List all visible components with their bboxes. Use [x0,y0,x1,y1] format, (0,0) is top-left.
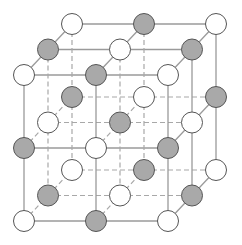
lattice-atoms [14,14,227,232]
gray-ion-atom [134,14,155,35]
lattice-diagram [0,0,242,245]
white-ion-atom [38,112,59,133]
gray-ion-atom [182,185,203,206]
white-ion-atom [86,138,107,159]
white-ion-atom [110,185,131,206]
gray-ion-atom [182,39,203,60]
white-ion-atom [158,65,179,86]
white-ion-atom [14,211,35,232]
gray-ion-atom [134,160,155,181]
gray-ion-atom [158,138,179,159]
gray-ion-atom [38,39,59,60]
white-ion-atom [134,87,155,108]
white-ion-atom [206,14,227,35]
gray-ion-atom [14,138,35,159]
gray-ion-atom [38,185,59,206]
white-ion-atom [182,112,203,133]
gray-ion-atom [62,87,83,108]
gray-ion-atom [86,65,107,86]
lattice-svg [0,0,242,245]
white-ion-atom [206,160,227,181]
gray-ion-atom [110,112,131,133]
white-ion-atom [62,160,83,181]
white-ion-atom [110,39,131,60]
white-ion-atom [158,211,179,232]
white-ion-atom [14,65,35,86]
gray-ion-atom [86,211,107,232]
gray-ion-atom [206,87,227,108]
white-ion-atom [62,14,83,35]
